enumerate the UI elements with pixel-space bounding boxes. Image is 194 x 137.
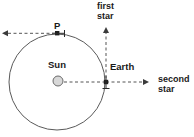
sun-marker xyxy=(53,76,63,86)
second-star-label: second star xyxy=(158,74,190,94)
first-star-label: first star xyxy=(97,1,114,21)
sun-label: Sun xyxy=(48,60,66,70)
p-left-arrowhead-icon xyxy=(2,30,8,36)
second-star-arrowhead-icon xyxy=(143,79,149,85)
earth-label: Earth xyxy=(110,62,134,72)
orbit-diagram: first star second star Sun Earth P xyxy=(0,0,194,137)
point-p-label: P xyxy=(54,21,60,31)
first-star-arrowhead-icon xyxy=(103,27,109,33)
